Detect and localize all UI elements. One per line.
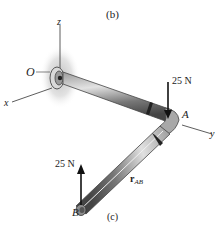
point-B-label: B bbox=[72, 207, 79, 218]
position-vector-label: rAB bbox=[130, 174, 143, 186]
force-label-B: 25 N bbox=[55, 159, 75, 169]
vector-subscript: AB bbox=[134, 178, 143, 186]
caption-b: (b) bbox=[106, 9, 119, 20]
x-axis-label: x bbox=[4, 98, 8, 108]
force-label-A: 25 N bbox=[172, 76, 192, 86]
caption-c: (c) bbox=[107, 212, 118, 222]
y-axis-line bbox=[182, 125, 212, 134]
pipe-segment-OA bbox=[63, 72, 172, 122]
y-axis-label: y bbox=[210, 129, 214, 139]
point-A-label: A bbox=[182, 109, 189, 120]
pipe-assembly-diagram: (b) z O x 25 N A y 25 N rAB B (c) bbox=[0, 0, 215, 227]
z-axis-label: z bbox=[57, 17, 61, 27]
pipe-end-B-bore bbox=[80, 207, 85, 213]
force-arrow-B-head bbox=[77, 164, 85, 174]
flange-hub bbox=[58, 76, 62, 80]
origin-label: O bbox=[26, 66, 35, 78]
pipe-AB-highlight bbox=[80, 131, 163, 210]
